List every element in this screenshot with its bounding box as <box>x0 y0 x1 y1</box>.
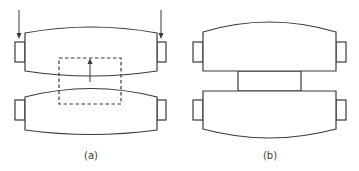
roll-body <box>203 22 336 71</box>
panel-b <box>193 22 346 138</box>
roll-body <box>203 91 336 138</box>
panel-b-label: (b) <box>263 150 277 161</box>
left-journal <box>193 42 203 62</box>
roll-diagram <box>0 0 359 171</box>
panel-a <box>15 10 166 135</box>
roll-body <box>25 27 157 76</box>
left-journal <box>15 42 25 62</box>
right-load-arrow-icon <box>159 10 164 39</box>
panel-b-top-roll <box>193 22 346 71</box>
right-journal <box>336 42 346 62</box>
panel-b-bottom-roll <box>193 91 346 138</box>
left-load-arrow-icon <box>17 10 22 39</box>
contact-zone <box>238 71 301 91</box>
roll-body <box>25 89 157 135</box>
right-journal <box>157 42 166 62</box>
right-journal <box>336 100 346 120</box>
left-journal <box>193 100 203 120</box>
left-journal <box>15 100 25 120</box>
panel-a-label: (a) <box>84 150 98 161</box>
right-journal <box>157 100 166 120</box>
panel-a-bottom-roll <box>15 89 166 135</box>
